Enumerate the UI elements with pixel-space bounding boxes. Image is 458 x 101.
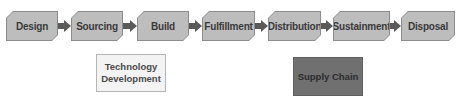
stage-disposal: Disposal [401,11,455,41]
stage-label: Sustainment [334,12,389,40]
arrow-icon [123,21,137,31]
arrow-icon [58,21,71,31]
arrow-icon [390,21,401,31]
stage-label: Sourcing [72,12,122,40]
legend-technology-development: Technology Development [96,54,166,92]
stage-label: Fulfillment [203,12,254,40]
stage-fulfillment: Fulfillment [202,11,255,41]
stage-label: Build [138,12,188,40]
stage-label: Design [7,12,57,40]
arrow-icon [255,21,268,31]
arrow-icon [321,21,333,31]
legend-supply-chain: Supply Chain [293,57,363,96]
legend-label: Technology Development [97,61,165,85]
stage-distribution: Distribution [268,11,321,41]
stage-design: Design [6,11,58,41]
stage-build: Build [137,11,189,41]
stage-sustainment: Sustainment [333,11,390,41]
stage-sourcing: Sourcing [71,11,123,41]
stage-label: Disposal [402,12,454,40]
stage-label: Distribution [269,12,320,40]
legend-label: Supply Chain [298,71,359,83]
arrow-icon [189,21,202,31]
